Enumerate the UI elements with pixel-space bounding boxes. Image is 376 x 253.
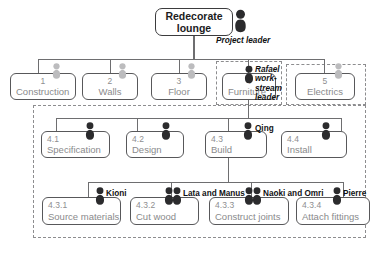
person-icon-light-walls [118, 63, 127, 79]
node-4-1-specification[interactable]: 4.1 Specification [41, 131, 110, 158]
assignee-label-qing: Qing [255, 124, 274, 134]
assignee-label-kioni: Kioni [106, 189, 126, 199]
node-label: Attach fittings [302, 211, 359, 222]
node-3-floor[interactable]: 3 Floor [151, 73, 207, 100]
node-label: Construction [16, 86, 69, 97]
person-icon-dark-project-leader [234, 9, 247, 33]
node-label: Design [132, 144, 162, 155]
connector-drop-3 [179, 59, 180, 73]
wbs-diagram-canvas: Redecorate lounge Project leader 1 Const… [0, 0, 376, 253]
node-label: Specification [47, 144, 101, 155]
person-icon-dark-omri [252, 187, 262, 205]
node-4-2-design[interactable]: 4.2 Design [126, 131, 184, 158]
assignee-label-pierre: Pierre [343, 189, 366, 199]
node-5-electrics[interactable]: 5 Electrics [295, 73, 355, 100]
person-icon-light-floor [187, 63, 196, 79]
project-leader-role-label: Project leader [216, 36, 270, 45]
node-number: 5 [296, 76, 354, 86]
node-label: Install [287, 144, 312, 155]
connector-drop-4-4 [341, 118, 342, 131]
node-number: 4.3.2 [136, 200, 155, 210]
node-label: Electrics [296, 86, 354, 97]
node-number: 4.3.1 [48, 200, 67, 210]
node-number: 4.3.3 [215, 200, 234, 210]
node-number: 1 [11, 76, 75, 86]
connector-furniture-stem [248, 100, 249, 118]
person-icon-dark-4-1 [85, 122, 95, 140]
connector-drop-4-3 [228, 118, 229, 131]
node-label: Floor [152, 86, 206, 97]
connector-drop-4-2 [137, 118, 138, 131]
node-number: 4.2 [132, 134, 144, 144]
person-icon-light-construction [52, 63, 61, 79]
node-label: Construct joints [215, 211, 280, 222]
person-icon-dark-pierre [332, 187, 342, 205]
rafael-workstream-leader-label: Rafael work-stream leader [255, 65, 283, 103]
connector-drop-5 [324, 59, 325, 73]
node-number: 3 [152, 76, 206, 86]
node-label: Build [211, 144, 232, 155]
connector-bus-level3 [88, 182, 343, 183]
node-number: 4.3 [211, 134, 223, 144]
connector-build-stem [228, 158, 229, 182]
node-number: 4.1 [47, 134, 59, 144]
connector-drop-4-1 [56, 118, 57, 131]
node-4-4-install[interactable]: 4.4 Install [281, 131, 347, 158]
person-icon-dark-rafael [244, 65, 254, 84]
connector-drop-2 [110, 59, 111, 73]
node-number: 2 [83, 76, 137, 86]
person-icon-dark-kioni [95, 187, 105, 205]
node-4-3-build[interactable]: 4.3 Build [205, 131, 267, 158]
person-icon-dark-qing [243, 122, 253, 140]
node-1-construction[interactable]: 1 Construction [10, 73, 76, 100]
connector-bus-level2 [56, 118, 342, 119]
person-icon-light-electrics [334, 63, 343, 79]
connector-drop-1 [38, 59, 39, 73]
node-4-3-1-source-materials[interactable]: 4.3.1 Source materials [42, 197, 121, 225]
person-icon-dark-manus [172, 187, 182, 205]
person-icon-dark-4-2 [161, 122, 171, 140]
node-number: 4.3.4 [302, 200, 321, 210]
connector-root-stem [193, 36, 194, 59]
node-root-redecorate-lounge[interactable]: Redecorate lounge [155, 8, 233, 36]
node-label: Source materials [48, 211, 119, 222]
node-number: 4.4 [287, 134, 299, 144]
node-label: Cut wood [136, 211, 176, 222]
node-2-walls[interactable]: 2 Walls [82, 73, 138, 100]
connector-drop-4-3-1 [88, 182, 89, 197]
connector-bus-level1 [38, 59, 325, 60]
person-icon-dark-4-4 [321, 122, 331, 140]
node-label: Walls [83, 86, 137, 97]
root-title: Redecorate lounge [156, 11, 232, 34]
